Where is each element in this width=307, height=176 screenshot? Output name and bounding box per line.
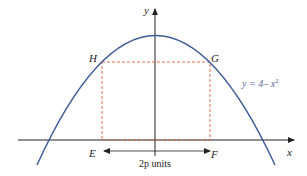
point-label-g: G (211, 52, 219, 64)
width-label: 2p units (139, 158, 171, 169)
parabola-rectangle-diagram: y x H G E F 2p units y = 4– x2 (0, 0, 307, 176)
y-axis-label: y (143, 4, 149, 16)
curve-equation: y = 4– x2 (241, 77, 279, 89)
inscribed-rectangle (102, 62, 210, 140)
x-axis-label: x (286, 146, 292, 158)
width-label-unit: units (149, 158, 171, 169)
point-label-f: F (210, 148, 218, 160)
curve-equation-text: y = 4– x (241, 78, 276, 89)
parabola-curve (37, 36, 275, 166)
point-label-h: H (88, 52, 98, 64)
point-label-e: E (88, 147, 96, 159)
width-label-var: 2p (139, 158, 149, 169)
curve-equation-exponent: 2 (275, 77, 279, 85)
